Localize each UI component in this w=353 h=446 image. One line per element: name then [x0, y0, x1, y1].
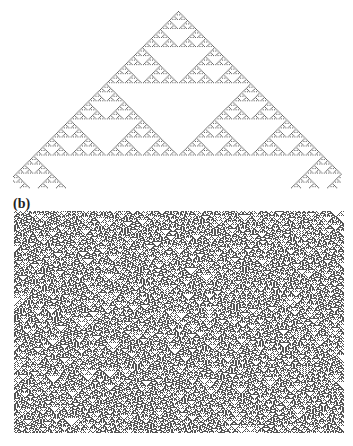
panel-b-random-automaton: [14, 211, 344, 433]
panel-b-label: (b): [13, 196, 30, 212]
panel-a-sierpinski-automaton: [0, 0, 353, 195]
